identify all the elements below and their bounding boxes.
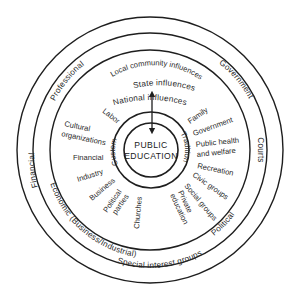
label-national-influences: National influences: [112, 93, 188, 107]
label-financial-outer: Financial: [27, 152, 39, 188]
center-label-education: EDUCATION: [124, 151, 178, 161]
label-financial-inner: Financial: [73, 153, 104, 162]
label-custom: Custom: [108, 137, 120, 167]
label-churches: Churches: [132, 196, 144, 229]
label-government-outer: Government: [218, 58, 256, 101]
label-family: Family: [186, 105, 210, 125]
label-courts: Courts: [256, 137, 265, 162]
label-labor: Labor: [101, 106, 122, 125]
label-tradition: Tradition: [179, 130, 192, 164]
label-professional: Professional: [48, 59, 85, 102]
core-ring-inner: [124, 123, 178, 177]
label-local-community-influences: Local community influences: [109, 58, 205, 82]
center-label-public: PUBLIC: [134, 140, 167, 150]
label-industry: Industry: [76, 167, 105, 184]
outer-ring-national: [17, 17, 283, 283]
label-state-influences: State influences: [132, 78, 196, 93]
education-influences-diagram: National influences State influences Pro…: [0, 0, 300, 301]
